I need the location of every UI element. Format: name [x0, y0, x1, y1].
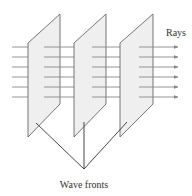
wave-front-1	[28, 14, 60, 137]
rays-label: Rays	[166, 27, 186, 38]
ray-segments-incoming	[12, 47, 28, 97]
wave-diagram: Rays Wave fronts	[0, 0, 192, 196]
wave-front-3	[120, 14, 153, 137]
wave-front-2	[74, 14, 106, 137]
wave-fronts-label: Wave fronts	[60, 179, 108, 190]
